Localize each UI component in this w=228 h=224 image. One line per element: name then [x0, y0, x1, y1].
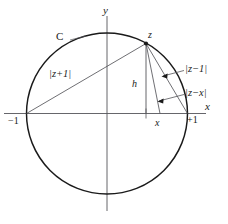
- length-label-mod-z-minus-x: |z−x|: [185, 88, 207, 99]
- complex-plane-circle-diagram: y x C z −1 +1 x h |z+1| |z−1| |z−x|: [0, 0, 228, 224]
- arrowhead-mod-z-minus-x: [158, 98, 164, 103]
- point-label-plus-one: +1: [187, 115, 198, 125]
- segment-z-to-x: [146, 44, 160, 114]
- diagram-canvas: [0, 0, 228, 224]
- length-label-mod-z-plus-1: |z+1|: [49, 69, 71, 80]
- point-label-minus-one: −1: [8, 116, 19, 126]
- point-label-z: z: [148, 30, 152, 40]
- leader-line-curve-c: [70, 36, 86, 40]
- length-label-mod-z-minus-1: |z−1|: [185, 64, 207, 75]
- chord-minus1-to-z: [27, 44, 147, 114]
- y-axis-label: y: [103, 5, 108, 16]
- point-label-x: x: [155, 118, 159, 128]
- curve-label-c: C: [56, 31, 63, 42]
- chord-z-to-plus1: [146, 44, 188, 114]
- height-label-h: h: [132, 79, 137, 89]
- point-marker-z: [144, 41, 148, 45]
- x-axis-label: x: [205, 101, 210, 112]
